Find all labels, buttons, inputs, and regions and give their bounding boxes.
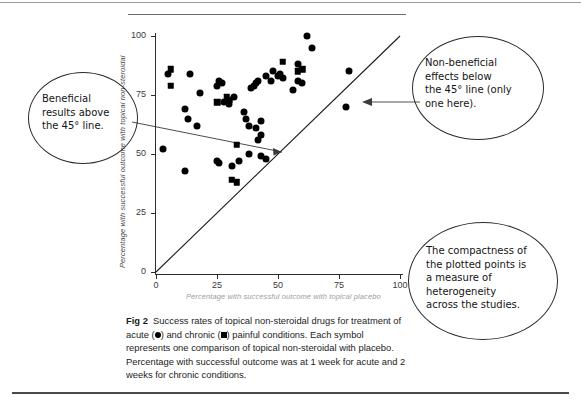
data-point-circle <box>343 103 350 110</box>
data-point-circle <box>255 77 262 84</box>
x-tick-0 <box>156 275 157 279</box>
x-tick-label-0: 0 <box>143 280 169 290</box>
data-point-circle <box>184 115 191 122</box>
x-tick-label-50: 50 <box>265 280 291 290</box>
data-point-square <box>214 99 221 106</box>
plot-area <box>156 36 400 272</box>
data-point-circle <box>240 108 247 115</box>
annotation-text-compactness: The compactness of the plotted points is… <box>426 244 554 312</box>
x-axis-title: Percentage with successful outcome with … <box>186 292 381 301</box>
caption-line-2c: ) painful conditions. Each symbol <box>227 329 364 340</box>
data-point-circle <box>160 146 167 153</box>
figure-label: Fig 2 <box>126 315 148 326</box>
x-tick-75 <box>339 275 340 279</box>
data-point-circle <box>243 115 250 122</box>
data-point-circle <box>187 70 194 77</box>
data-point-square <box>167 82 174 89</box>
caption-line-1: Success rates of topical non-steroidal d… <box>153 315 401 326</box>
caption-line-5: weeks for chronic conditions. <box>126 369 246 380</box>
data-point-circle <box>299 80 306 87</box>
data-point-circle <box>196 89 203 96</box>
data-point-circle <box>279 75 286 82</box>
data-point-circle <box>253 125 260 132</box>
y-tick-label-100: 100 <box>120 30 146 40</box>
annotation-text-non-beneficial: Non-beneficial effects below the 45° lin… <box>425 56 537 110</box>
data-point-circle <box>304 33 311 40</box>
data-point-circle <box>262 155 269 162</box>
y-tick-100 <box>151 36 155 37</box>
data-point-circle <box>182 106 189 113</box>
data-point-circle <box>182 167 189 174</box>
x-tick-100 <box>400 275 401 279</box>
data-point-circle <box>218 80 225 87</box>
data-point-square <box>226 96 233 103</box>
data-point-circle <box>289 87 296 94</box>
data-point-circle <box>257 132 264 139</box>
data-point-circle <box>245 122 252 129</box>
y-tick-25 <box>151 213 155 214</box>
caption-line-3: represents one comparison of topical non… <box>126 342 394 353</box>
data-point-square <box>167 66 174 73</box>
data-point-circle <box>309 44 316 51</box>
annotation-text-beneficial: Beneficial results above the 45° line. <box>42 92 134 133</box>
data-point-circle <box>216 160 223 167</box>
caption-line-2b: ) and chronic ( <box>161 329 221 340</box>
x-axis-line <box>155 274 403 275</box>
data-point-circle <box>267 77 274 84</box>
data-point-circle <box>194 122 201 129</box>
data-point-square <box>233 141 240 148</box>
data-point-circle <box>345 68 352 75</box>
y-tick-0 <box>151 272 155 273</box>
data-point-circle <box>228 162 235 169</box>
data-point-square <box>299 66 306 73</box>
x-tick-label-75: 75 <box>326 280 352 290</box>
x-tick-label-25: 25 <box>204 280 230 290</box>
data-point-circle <box>235 158 242 165</box>
x-tick-25 <box>217 275 218 279</box>
figure-caption: Fig 2 Success rates of topical non-stero… <box>126 314 444 382</box>
figure-page: 0 25 50 75 100 0 25 50 75 100 Percentage… <box>0 0 581 406</box>
caption-line-4: Percentage with successful outcome was a… <box>126 356 405 367</box>
data-point-square <box>280 59 287 66</box>
caption-line-2a: acute ( <box>126 329 155 340</box>
data-point-circle <box>257 117 264 124</box>
x-tick-50 <box>278 275 279 279</box>
y-tick-50 <box>151 154 155 155</box>
data-point-square <box>233 179 240 186</box>
data-point-circle <box>245 151 252 158</box>
y-tick-75 <box>151 95 155 96</box>
